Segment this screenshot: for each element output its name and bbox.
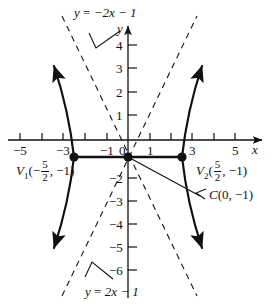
x-axis	[8, 133, 262, 140]
vertex-left-label: V1(−52, −1)	[16, 160, 74, 184]
asymptote-bottom-body: 2x − 1	[105, 284, 139, 299]
asymptote-top-equals: =	[83, 5, 90, 20]
vertex-right-point	[177, 152, 186, 161]
y-tick-label--2: −2	[109, 172, 123, 185]
hyperbola-figure: −5 −3 −1 0 1 3 5 4 3 2 1 −2 −3 −4 −5 −6 …	[0, 0, 277, 308]
y-tick-label-4: 4	[116, 39, 123, 52]
vertex-left-open: (−	[28, 163, 40, 178]
asymptote-bottom-y: y	[85, 284, 91, 299]
vertex-right-denominator: 2	[214, 171, 222, 184]
center-symbol: C	[209, 187, 218, 202]
vertex-right-label: V2(52, −1)	[196, 160, 247, 184]
vertex-right-open: (	[208, 163, 212, 178]
vertex-left-symbol: V	[16, 163, 24, 178]
x-tick-label-3: 3	[189, 144, 196, 157]
leader-line-center	[196, 189, 206, 199]
vertex-left-denominator: 2	[41, 171, 49, 184]
x-tick-label--3: −3	[56, 144, 70, 157]
x-tick-label-0: 0	[119, 144, 126, 157]
y-tick-label--3: −3	[109, 195, 123, 208]
asymptote-negative-slope-label: y = −2x − 1	[74, 6, 136, 19]
vertex-right-fraction: 52	[214, 159, 222, 183]
y-tick-label--5: −5	[109, 241, 123, 254]
y-tick-label-1: 1	[116, 109, 123, 122]
center-rest: (0, −1)	[218, 187, 254, 202]
x-axis-label: x	[252, 143, 258, 156]
y-tick-label-2: 2	[116, 86, 123, 99]
vertex-right-numerator: 5	[214, 159, 222, 171]
y-axis	[128, 26, 137, 298]
x-tick-label-5: 5	[232, 144, 239, 157]
vertex-right-rest: , −1)	[222, 163, 247, 178]
x-tick-label-1: 1	[147, 144, 154, 157]
x-tick-label--1: −1	[100, 144, 114, 157]
y-tick-label-3: 3	[116, 62, 123, 75]
vertex-left-numerator: 5	[41, 159, 49, 171]
vertex-right-symbol: V	[196, 163, 204, 178]
asymptote-top-y: y	[74, 5, 80, 20]
y-tick-label--4: −4	[109, 218, 123, 231]
asymptote-top-body: −2x − 1	[94, 5, 137, 20]
asymptote-bottom-equals: =	[94, 284, 101, 299]
y-tick-label--6: −6	[109, 264, 123, 277]
center-label: C(0, −1)	[209, 188, 253, 201]
y-axis-label: y	[117, 22, 123, 35]
asymptote-positive-slope-label: y = 2x − 1	[85, 285, 139, 298]
vertex-left-rest: , −1)	[50, 163, 75, 178]
vertex-left-fraction: 52	[41, 159, 49, 183]
x-tick-label--5: −5	[13, 144, 27, 157]
